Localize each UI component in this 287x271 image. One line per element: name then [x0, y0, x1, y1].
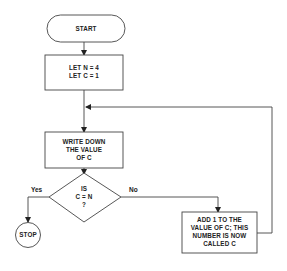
decision-line-2: C = N — [60, 193, 108, 201]
stop-label: STOP — [15, 231, 41, 239]
increment-line-2: VALUE OF C; THIS — [182, 224, 257, 232]
init-line-2: LET C = 1 — [45, 72, 123, 80]
yes-label: Yes — [31, 186, 42, 193]
increment-line-3: NUMBER IS NOW — [182, 232, 257, 240]
increment-line-4: CALLED C — [182, 240, 257, 248]
no-label: No — [129, 186, 138, 193]
init-line-1: LET N = 4 — [45, 64, 123, 72]
increment-text: ADD 1 TO THE VALUE OF C; THIS NUMBER IS … — [182, 216, 257, 248]
write-line-3: OF C — [45, 154, 123, 162]
decision-line-1: IS — [60, 185, 108, 193]
decision-line-3: ? — [60, 201, 108, 209]
write-text: WRITE DOWN THE VALUE OF C — [45, 138, 123, 162]
arrow-yes-to-stop — [28, 197, 49, 222]
start-label: START — [47, 25, 125, 33]
write-line-2: THE VALUE — [45, 146, 123, 154]
decision-text: IS C = N ? — [60, 185, 108, 209]
init-text: LET N = 4 LET C = 1 — [45, 64, 123, 80]
write-line-1: WRITE DOWN — [45, 138, 123, 146]
arrow-no-to-increment — [121, 197, 218, 212]
increment-line-1: ADD 1 TO THE — [182, 216, 257, 224]
